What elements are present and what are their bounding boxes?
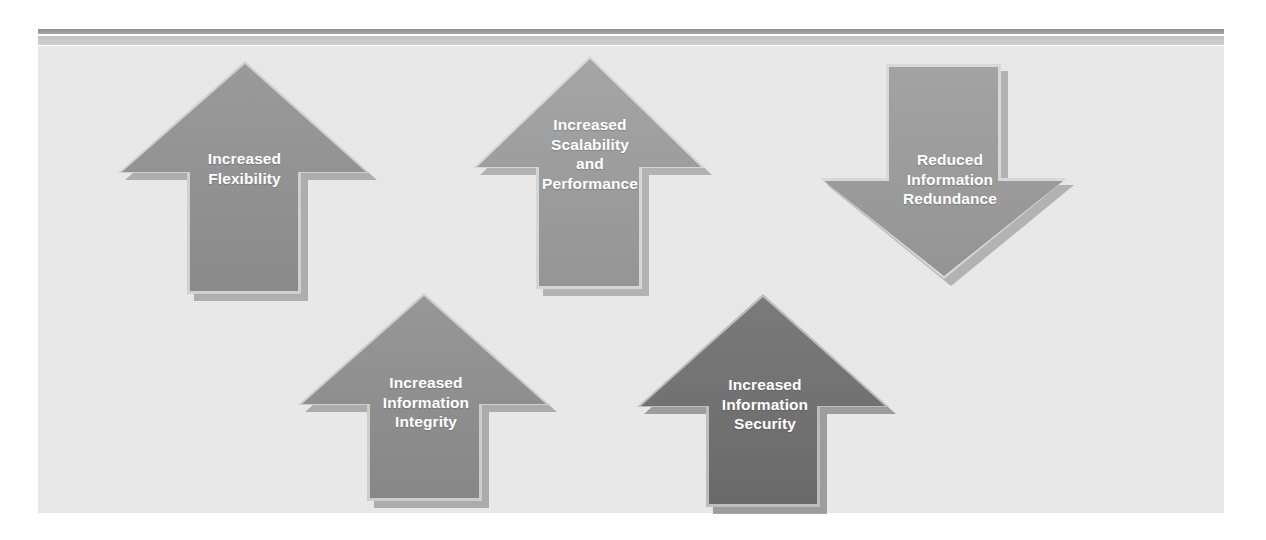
arrow-up-shape-4	[291, 286, 561, 511]
top-rule-dark	[38, 29, 1224, 34]
arrow-increased-scalability-and-performance: Increased Scalability and Performance	[465, 50, 715, 300]
diagram-panel: Increased Flexibility Increased Scalabil…	[38, 46, 1224, 513]
arrow-up-shape-5	[630, 287, 900, 517]
arrow-increased-information-security: Increased Information Security	[630, 287, 900, 517]
arrow-down-shape-3	[820, 42, 1080, 292]
arrow-up-shape-1	[112, 58, 377, 298]
arrow-reduced-information-redundance: Reduced Information Redundance	[820, 42, 1080, 292]
arrow-up-shape-2	[465, 50, 715, 300]
benefits-arrows-figure: Increased Flexibility Increased Scalabil…	[0, 0, 1266, 540]
arrow-increased-information-integrity: Increased Information Integrity	[291, 286, 561, 511]
arrow-increased-flexibility: Increased Flexibility	[112, 58, 377, 298]
